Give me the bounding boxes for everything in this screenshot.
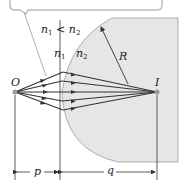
callout-box xyxy=(10,0,162,14)
image-point xyxy=(155,90,160,95)
object-distance-label: p xyxy=(34,166,41,177)
image-distance-label: q xyxy=(107,165,114,176)
object-label: O xyxy=(11,77,20,88)
diagram-graphics xyxy=(0,0,185,194)
radius-label: R xyxy=(119,51,127,62)
index-condition-label: n1 < n2 xyxy=(41,24,80,37)
object-point xyxy=(13,90,18,95)
medium-1-label: n1 xyxy=(54,48,66,61)
glass-medium xyxy=(62,18,178,162)
refraction-diagram: n1 < n2 n1 n2 R O I p q xyxy=(0,0,185,194)
callout-pointer xyxy=(24,12,46,76)
medium-2-label: n2 xyxy=(76,48,88,61)
image-label: I xyxy=(155,77,159,88)
